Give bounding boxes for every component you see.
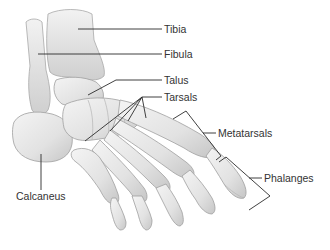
- label-tarsals: Tarsals: [164, 92, 197, 103]
- label-calcaneus: Calcaneus: [16, 191, 66, 202]
- foot-illustration: [0, 0, 330, 250]
- label-metatarsals: Metatarsals: [218, 128, 272, 139]
- label-phalanges: Phalanges: [264, 173, 314, 184]
- label-talus: Talus: [164, 75, 189, 86]
- label-tibia: Tibia: [164, 24, 186, 35]
- label-fibula: Fibula: [164, 49, 193, 60]
- foot-bones-diagram: Tibia Fibula Talus Tarsals Metatarsals P…: [0, 0, 330, 250]
- tibia-bone: [47, 10, 105, 81]
